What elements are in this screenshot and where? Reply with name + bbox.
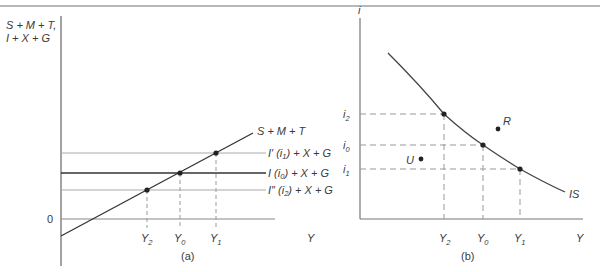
- panel-b-point-u: [419, 157, 424, 162]
- panel-b: i i2 i0 i1 IS R U Y2 Y0 Y1 Y (b): [343, 4, 584, 262]
- panel-a-tick-y2: Y2: [141, 232, 153, 247]
- panel-b-tick-y2: Y2: [439, 232, 451, 247]
- panel-a-tick-y1: Y1: [210, 232, 222, 247]
- panel-b-caption: (b): [461, 250, 474, 262]
- panel-b-point-r: [496, 127, 501, 132]
- panel-a: S + M + T, I + X + G 0 S + M + T I′ (i1)…: [6, 16, 333, 266]
- panel-b-tick-i0: i0: [343, 139, 350, 154]
- panel-b-y-axis-label: i: [358, 4, 361, 16]
- panel-b-tick-i1: i1: [343, 163, 350, 178]
- panel-b-tick-y0: Y0: [477, 232, 489, 247]
- panel-b-is-label: IS: [569, 188, 580, 200]
- panel-a-label-i-prime: I′ (i1) + X + G: [268, 147, 332, 161]
- panel-a-saving-line-label: S + M + T: [257, 125, 307, 137]
- is-curve-derivation-figure: S + M + T, I + X + G 0 S + M + T I′ (i1)…: [0, 0, 600, 272]
- panel-a-label-i-double-prime: I″ (i2) + X + G: [268, 184, 333, 198]
- panel-a-caption: (a): [181, 250, 194, 262]
- panel-a-label-i: I (i0) + X + G: [268, 167, 329, 181]
- panel-b-tick-i2: i2: [343, 108, 350, 123]
- panel-a-x-axis-label: Y: [307, 232, 315, 244]
- panel-a-origin-label: 0: [47, 213, 53, 225]
- panel-b-point-y0-i0: [480, 142, 485, 147]
- panel-b-point-y1-i1: [517, 166, 522, 171]
- panel-a-y-axis-label-line1: S + M + T,: [6, 19, 56, 31]
- panel-a-point-y2: [144, 187, 149, 192]
- panel-a-tick-y0: Y0: [174, 232, 186, 247]
- panel-a-saving-line: [61, 133, 253, 236]
- panel-b-label-r: R: [503, 115, 511, 127]
- panel-b-x-axis-label: Y: [576, 232, 584, 244]
- panel-a-point-y0: [177, 170, 182, 175]
- panel-b-label-u: U: [406, 154, 414, 166]
- panel-a-point-y1: [213, 150, 218, 155]
- panel-b-is-curve: [388, 53, 565, 192]
- panel-a-y-axis-label-line2: I + X + G: [6, 32, 50, 44]
- panel-b-point-y2-i2: [441, 111, 446, 116]
- panel-b-tick-y1: Y1: [514, 232, 526, 247]
